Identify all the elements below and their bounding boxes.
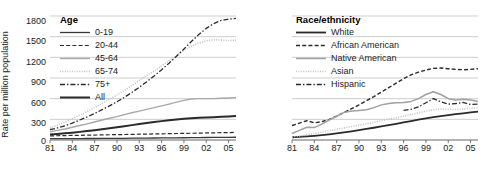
legend-item[interactable]: All (60, 91, 118, 104)
x-tick-label: 93 (370, 142, 392, 154)
figure-two-panel-line-chart: Rate per million population 1800 1500 12… (0, 0, 484, 179)
x-tick-label: 87 (326, 142, 348, 154)
x-axis-ticks-race: 818487909396990205 (292, 142, 478, 156)
x-tick-label: 96 (151, 142, 173, 154)
panel-age: Rate per million population 1800 1500 12… (0, 0, 242, 179)
legend-label: White (331, 27, 354, 38)
x-tick-label: 99 (415, 142, 437, 154)
legend-line-swatch (296, 27, 326, 38)
y-tick-label: 600 (12, 99, 46, 108)
x-tick-label: 84 (61, 142, 83, 154)
y-axis-label: Rate per million population (0, 12, 12, 157)
legend-label: 65-74 (95, 66, 118, 77)
legend-item[interactable]: White (296, 26, 399, 39)
legend-item[interactable]: 75+ (60, 78, 118, 91)
legend-race: Race/ethnicity WhiteAfrican AmericanNati… (296, 14, 399, 91)
y-tick-label: 1200 (12, 58, 46, 67)
x-tick-label: 05 (218, 142, 240, 154)
legend-line-swatch (60, 79, 90, 90)
legend-age: Age 0-1920-4445-6465-7475+All (60, 14, 118, 104)
legend-line-swatch (60, 40, 90, 51)
y-tick-label: 1500 (12, 37, 46, 46)
legend-label: 45-64 (95, 53, 118, 64)
x-tick-label: 96 (393, 142, 415, 154)
x-tick-label: 02 (437, 142, 459, 154)
legend-label: 75+ (95, 79, 110, 90)
legend-line-swatch (296, 40, 326, 51)
x-tick-label: 02 (195, 142, 217, 154)
series-line (292, 92, 478, 134)
x-tick-label: 93 (128, 142, 150, 154)
x-tick-label: 81 (281, 142, 303, 154)
x-tick-label: 05 (460, 142, 482, 154)
x-axis-ticks-age: 818487909396990205 (50, 142, 236, 156)
legend-item[interactable]: Hispanic (296, 78, 399, 91)
legend-line-swatch (296, 53, 326, 64)
legend-label: African American (331, 40, 399, 51)
x-tick-label: 84 (303, 142, 325, 154)
legend-line-swatch (60, 27, 90, 38)
legend-line-swatch (60, 92, 90, 103)
legend-label: Native American (331, 53, 397, 64)
legend-label: 0-19 (95, 27, 113, 38)
legend-item[interactable]: Native American (296, 52, 399, 65)
legend-title-age: Age (60, 14, 118, 25)
y-tick-label: 1800 (12, 17, 46, 26)
x-tick-label: 90 (106, 142, 128, 154)
panel-race-ethnicity: 818487909396990205 Race/ethnicity WhiteA… (242, 0, 484, 179)
y-tick-label: 900 (12, 78, 46, 87)
x-tick-label: 81 (39, 142, 61, 154)
series-line (50, 137, 236, 138)
legend-label: All (95, 92, 105, 103)
legend-line-swatch (60, 53, 90, 64)
x-tick-label: 90 (348, 142, 370, 154)
legend-item[interactable]: 0-19 (60, 26, 118, 39)
legend-line-swatch (60, 66, 90, 77)
legend-label: Hispanic (331, 79, 366, 90)
legend-line-swatch (296, 79, 326, 90)
legend-item[interactable]: 45-64 (60, 52, 118, 65)
legend-title-race: Race/ethnicity (296, 14, 399, 25)
legend-label: Asian (331, 66, 354, 77)
legend-item[interactable]: 20-44 (60, 39, 118, 52)
series-line (292, 108, 478, 138)
legend-item[interactable]: African American (296, 39, 399, 52)
legend-label: 20-44 (95, 40, 118, 51)
x-tick-label: 99 (173, 142, 195, 154)
legend-item[interactable]: 65-74 (60, 65, 118, 78)
x-tick-label: 87 (84, 142, 106, 154)
legend-line-swatch (296, 66, 326, 77)
legend-item[interactable]: Asian (296, 65, 399, 78)
y-tick-label: 300 (12, 119, 46, 128)
